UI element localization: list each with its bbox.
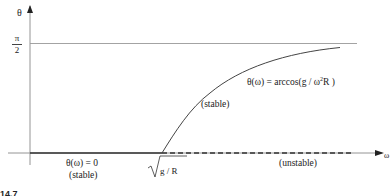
tick-numerator: π — [15, 33, 20, 43]
upper-branch-stable-label: (stable) — [201, 100, 230, 110]
formula-main: θ(ω) = arccos(g / ω — [247, 77, 320, 87]
x-axis-label: ω — [384, 152, 389, 160]
unstable-branch-label: (unstable) — [279, 159, 317, 169]
figure-number-fragment: 14.7 — [0, 190, 18, 196]
formula-tail: R ) — [323, 77, 335, 87]
pi-over-2-tick-label: π 2 — [10, 34, 24, 55]
sqrt-g-over-r-tick-label: g / R — [160, 167, 178, 176]
zero-branch-formula-label: θ(ω) = 0 — [66, 159, 98, 169]
y-axis-arrow-icon — [27, 5, 33, 13]
x-axis-arrow-icon — [375, 150, 384, 156]
arccos-curve — [162, 48, 340, 154]
tick-denominator: 2 — [15, 45, 20, 55]
bifurcation-plot — [0, 0, 392, 196]
arccos-formula-label: θ(ω) = arccos(g / ω2R ) — [247, 76, 335, 88]
zero-branch-stable-label: (stable) — [69, 171, 98, 181]
y-axis-label: θ — [17, 8, 22, 18]
